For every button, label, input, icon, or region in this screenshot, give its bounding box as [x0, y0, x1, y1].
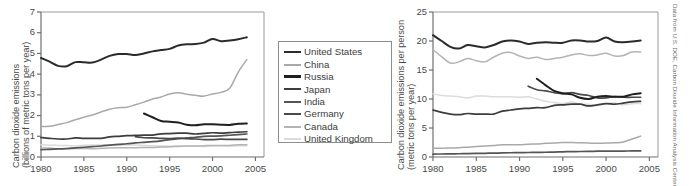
- chart-panel-per-capita-emissions: Carbon dioxide emissions per person (met…: [400, 0, 675, 186]
- chart-legend: United StatesChinaRussiaJapanIndiaGerman…: [278, 41, 392, 143]
- legend-swatch-line-icon: [284, 138, 301, 140]
- y-tick-label: 5: [13, 47, 35, 58]
- series-line: [433, 151, 641, 154]
- y-tick-label: 0: [405, 151, 427, 162]
- legend-item: Japan: [284, 83, 388, 95]
- data-source-credit: Data from U.S. DOE, Carbon Dioxide Infor…: [672, 4, 679, 186]
- legend-item: United Kingdom: [284, 133, 388, 145]
- legend-item-label: United Kingdom: [304, 134, 373, 144]
- series-line: [41, 60, 247, 127]
- legend-item: Canada: [284, 120, 388, 132]
- y-tick-label: 10: [405, 93, 427, 104]
- legend-swatch-line-icon: [284, 88, 301, 90]
- y-tick-label: 2: [13, 109, 35, 120]
- series-line: [433, 50, 641, 64]
- legend-item-label: Germany: [304, 109, 344, 119]
- legend-item-label: United States: [304, 47, 362, 57]
- legend-item: China: [284, 58, 388, 70]
- legend-item: United States: [284, 46, 388, 58]
- y-tick-label: 5: [405, 122, 427, 133]
- x-tick-label: 2000: [586, 163, 626, 174]
- legend-item: India: [284, 96, 388, 108]
- y-tick-label: 25: [405, 6, 427, 17]
- legend-swatch-line-icon: [284, 126, 301, 128]
- y-tick-label: 20: [405, 35, 427, 46]
- y-tick-label: 7: [13, 6, 35, 17]
- x-tick-label: 1980: [21, 163, 61, 174]
- x-tick-label: 1980: [413, 163, 453, 174]
- x-tick-label: 1995: [543, 163, 583, 174]
- plot-area-right: [400, 0, 675, 186]
- x-tick-label: 2005: [629, 163, 669, 174]
- legend-item-label: Russia: [304, 72, 334, 82]
- legend-item: Germany: [284, 108, 388, 120]
- y-tick-label: 15: [405, 64, 427, 75]
- y-tick-label: 4: [13, 68, 35, 79]
- legend-item-label: India: [304, 97, 325, 107]
- x-tick-label: 1995: [150, 163, 190, 174]
- plot-area-left: [0, 0, 270, 186]
- legend-swatch-line-icon: [284, 51, 301, 53]
- legend-item-label: Canada: [304, 122, 338, 132]
- legend-item-label: China: [304, 60, 329, 70]
- series-line: [41, 37, 247, 66]
- legend-swatch-line-icon: [284, 101, 301, 103]
- chart-panel-total-emissions: Carbon dioxide emissions (billions of me…: [0, 0, 270, 186]
- y-tick-label: 1: [13, 130, 35, 141]
- x-tick-label: 1990: [107, 163, 147, 174]
- legend-swatch-line-icon: [284, 64, 301, 66]
- legend-swatch-line-icon: [284, 75, 301, 78]
- x-tick-label: 1990: [500, 163, 540, 174]
- series-line: [433, 35, 641, 48]
- x-tick-label: 2000: [193, 163, 233, 174]
- y-tick-label: 6: [13, 26, 35, 37]
- series-line: [433, 101, 641, 114]
- y-tick-label: 0: [13, 151, 35, 162]
- series-line: [433, 136, 641, 148]
- x-tick-label: 1985: [456, 163, 496, 174]
- legend-item: Russia: [284, 71, 388, 83]
- x-tick-label: 1985: [64, 163, 104, 174]
- x-tick-label: 2005: [235, 163, 275, 174]
- figure-two-panel-co2-chart: Carbon dioxide emissions (billions of me…: [0, 0, 691, 186]
- legend-item-label: Japan: [304, 85, 330, 95]
- series-line: [144, 114, 247, 126]
- legend-swatch-line-icon: [284, 113, 301, 115]
- y-tick-label: 3: [13, 88, 35, 99]
